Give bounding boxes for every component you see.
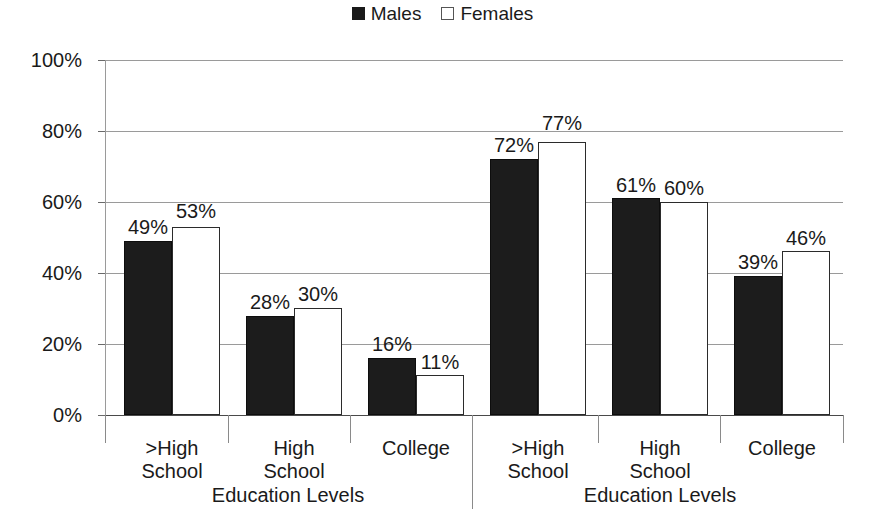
category-label-line2: School <box>263 460 324 483</box>
legend-entry-females: Females <box>441 4 533 23</box>
category-separator-left-1 <box>228 415 229 443</box>
bar-left-gthighschool-females <box>172 227 220 415</box>
bar-label-right-gthighschool-males: 72% <box>494 135 534 155</box>
y-tick-label-40: 40% <box>42 263 82 283</box>
bar-label-right-college-females: 46% <box>786 228 826 248</box>
x-axis-line <box>105 415 843 416</box>
y-tick-20 <box>98 344 105 345</box>
category-separator-right-2 <box>720 415 721 443</box>
chart-legend: Males Females <box>0 4 885 23</box>
y-tick-80 <box>98 131 105 132</box>
y-axis-line <box>105 60 106 415</box>
bar-chart: Males Females 0% 20% 40% 60% 80% 100% <box>0 0 885 509</box>
category-label-left-highschool: High School <box>263 437 324 483</box>
y-tick-0 <box>98 415 105 416</box>
category-label-line2: School <box>629 460 690 483</box>
category-label-line2: School <box>141 460 202 483</box>
y-tick-60 <box>98 202 105 203</box>
bar-label-left-highschool-males: 28% <box>250 292 290 312</box>
bar-label-right-gthighschool-females: 77% <box>542 113 582 133</box>
bar-label-left-gthighschool-males: 49% <box>128 217 168 237</box>
bar-right-college-females <box>782 251 830 415</box>
category-label-line1: >High <box>507 437 568 460</box>
y-tick-label-80: 80% <box>42 121 82 141</box>
category-separator-left-2 <box>350 415 351 443</box>
bar-right-college-males <box>734 276 782 415</box>
y-axis-labels: 0% 20% 40% 60% 80% 100% <box>0 60 95 415</box>
bar-left-college-males <box>368 358 416 415</box>
category-label-line1: College <box>748 437 816 460</box>
bar-right-gthighschool-males <box>490 159 538 415</box>
gridline-80 <box>105 131 843 132</box>
bar-label-right-highschool-males: 61% <box>616 175 656 195</box>
panel-divider <box>472 415 473 509</box>
bar-left-highschool-females <box>294 308 342 415</box>
gridline-100 <box>105 60 843 61</box>
bar-right-highschool-males <box>612 198 660 415</box>
bar-right-highschool-females <box>660 202 708 415</box>
bar-left-gthighschool-males <box>124 241 172 415</box>
category-label-line1: High <box>263 437 324 460</box>
category-label-line1: >High <box>141 437 202 460</box>
category-label-right-highschool: High School <box>629 437 690 483</box>
bar-left-highschool-males <box>246 316 294 415</box>
y-tick-label-60: 60% <box>42 192 82 212</box>
category-label-right-college: College <box>748 437 816 460</box>
legend-label-females: Females <box>460 4 533 23</box>
category-label-line1: High <box>629 437 690 460</box>
y-tick-label-20: 20% <box>42 334 82 354</box>
bar-right-gthighschool-females <box>538 142 586 415</box>
bar-label-right-highschool-females: 60% <box>664 178 704 198</box>
y-tick-label-100: 100% <box>31 50 82 70</box>
x-axis-title-right: Education Levels <box>584 484 736 506</box>
y-tick-100 <box>98 60 105 61</box>
category-label-line1: College <box>382 437 450 460</box>
category-separator-right-end <box>843 415 844 443</box>
y-tick-label-0: 0% <box>53 405 82 425</box>
bar-left-college-females <box>416 375 464 415</box>
category-label-right-gthighschool: >High School <box>507 437 568 483</box>
legend-entry-males: Males <box>352 4 422 23</box>
legend-label-males: Males <box>371 4 422 23</box>
bar-label-left-gthighschool-females: 53% <box>176 201 216 221</box>
bar-label-left-college-females: 11% <box>421 352 460 372</box>
category-label-left-gthighschool: >High School <box>141 437 202 483</box>
category-separator-left-start <box>105 415 106 443</box>
bar-label-left-college-males: 16% <box>372 334 412 354</box>
hollow-square-icon <box>441 7 454 20</box>
category-separator-right-1 <box>598 415 599 443</box>
x-axis-title-left: Education Levels <box>212 484 364 506</box>
category-label-line2: School <box>507 460 568 483</box>
y-tick-40 <box>98 273 105 274</box>
category-label-left-college: College <box>382 437 450 460</box>
filled-square-icon <box>352 7 365 20</box>
plot-area: 49% 53% 28% 30% 16% 11% 72% 77% 61% 60% … <box>105 60 843 415</box>
bar-label-left-highschool-females: 30% <box>298 284 338 304</box>
bar-label-right-college-males: 39% <box>738 252 778 272</box>
